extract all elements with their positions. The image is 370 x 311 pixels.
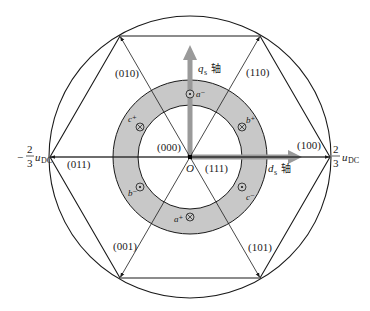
space-vector-diagram: (100) (110) (010) (011) (001) (101) (000… bbox=[0, 0, 370, 311]
svg-text:c⁻: c⁻ bbox=[246, 192, 255, 202]
svg-text:轴: 轴 bbox=[211, 62, 221, 74]
svg-text:3: 3 bbox=[333, 157, 339, 169]
svg-text:2: 2 bbox=[333, 143, 339, 155]
svg-text:轴: 轴 bbox=[281, 162, 291, 174]
vector-label-100: (100) bbox=[297, 139, 321, 152]
svg-text:c⁺: c⁺ bbox=[128, 114, 137, 124]
zero-vector-label-111: (111) bbox=[205, 162, 228, 175]
winding-a-minus: a⁻ bbox=[186, 89, 206, 99]
svg-text:a⁺: a⁺ bbox=[174, 214, 184, 224]
origin-label: O bbox=[186, 162, 194, 174]
vector-label-110: (110) bbox=[246, 66, 270, 79]
vector-label-011: (011) bbox=[67, 158, 91, 171]
svg-text:DC: DC bbox=[41, 156, 52, 165]
vector-label-001: (001) bbox=[113, 240, 137, 253]
q-axis-label: q s 轴 bbox=[198, 62, 221, 77]
vector-label-101: (101) bbox=[248, 241, 272, 254]
svg-text:s: s bbox=[274, 168, 277, 177]
svg-text:2: 2 bbox=[27, 143, 33, 155]
d-axis-label: d s 轴 bbox=[268, 162, 291, 177]
origin-point bbox=[188, 155, 192, 159]
zero-vector-label-000: (000) bbox=[157, 141, 181, 154]
svg-text:s: s bbox=[204, 68, 207, 77]
vector-label-010: (010) bbox=[115, 67, 139, 80]
svg-text:DC: DC bbox=[348, 156, 359, 165]
svg-text:3: 3 bbox=[27, 157, 33, 169]
svg-text:b⁻: b⁻ bbox=[128, 188, 138, 198]
svg-text:−: − bbox=[17, 151, 23, 163]
magnitude-label-right: 2 3 u DC bbox=[332, 143, 359, 169]
svg-text:a⁻: a⁻ bbox=[196, 89, 206, 99]
magnitude-label-left: − 2 3 u DC bbox=[17, 143, 52, 169]
svg-text:b⁺: b⁺ bbox=[246, 115, 256, 125]
